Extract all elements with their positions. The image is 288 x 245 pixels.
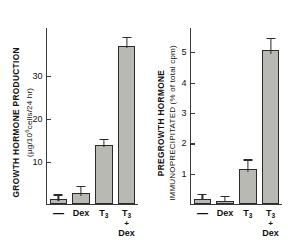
y-tick-label-left_panel-1: 20 <box>32 114 42 124</box>
error-cap-left_panel-control <box>54 194 63 195</box>
bar-slot-t3 <box>239 29 257 204</box>
error-cap-left_panel-t3 <box>99 139 108 140</box>
category-label-right_panel-t3-dex: T3+Dex <box>259 208 282 238</box>
y-tick-label-left_panel-2: 30 <box>32 71 42 81</box>
bar-slot-dex <box>216 29 234 204</box>
x-axis-line-right <box>190 204 282 205</box>
plus-glyph: + <box>259 219 282 228</box>
subscript: 3 <box>128 212 132 219</box>
y-axis-units-prefix: (µg/10 <box>25 133 34 157</box>
category-label-left_panel-control: — <box>47 208 70 219</box>
bar-slot-dex <box>72 29 90 204</box>
y-tick-label-left_panel-0: 10 <box>32 157 42 167</box>
bar-slot-t3-dex <box>118 29 136 204</box>
bar-left_panel-t3-dex <box>118 46 136 204</box>
plus-glyph: + <box>115 219 138 228</box>
category-label-right_panel-dex: Dex <box>214 208 237 218</box>
figure-container: GROWTH HORMONE PRODUCTION (µg/106cells/2… <box>0 0 288 245</box>
category-label-line3: Dex <box>115 228 138 238</box>
category-label-right_panel-t3: T3 <box>237 208 260 219</box>
error-cap-left_panel-t3-dex <box>122 37 131 38</box>
error-cap-right_panel-t3-dex <box>266 38 275 39</box>
subscript: 3 <box>105 212 109 219</box>
y-tick-label-right_panel-4: 5 <box>181 47 186 57</box>
error-bar-right_panel-control <box>202 195 203 200</box>
category-label-left_panel-dex: Dex <box>70 208 93 218</box>
bar-slot-t3-dex <box>262 29 280 204</box>
plot-area-left: 102030 <box>46 28 138 205</box>
y-axis-title-right-line1: PREGROWTH HORMONE <box>156 69 166 175</box>
y-axis-title-right-line2: IMMUNOPRECIPITATED (% of total cpm) <box>167 45 178 201</box>
error-bar-right_panel-t3 <box>247 161 248 172</box>
category-label-left_panel-t3-dex: T3+Dex <box>115 208 138 238</box>
bar-left_panel-t3 <box>95 145 113 203</box>
y-axis-title-right-wrap: PREGROWTH HORMONE IMMUNOPRECIPITATED (% … <box>144 0 190 245</box>
y-tick-label-right_panel-1: 2 <box>181 138 186 148</box>
category-label-line3: Dex <box>259 228 282 238</box>
y-tick-label-right_panel-2: 3 <box>181 108 186 118</box>
bar-right_panel-t3-dex <box>262 50 280 204</box>
category-label-left_panel-t3: T3 <box>93 208 116 219</box>
dash-glyph: — <box>53 207 64 219</box>
y-axis-title-right: PREGROWTH HORMONE IMMUNOPRECIPITATED (% … <box>156 45 178 201</box>
error-bar-right_panel-t3-dex <box>270 39 271 53</box>
bar-slot-t3 <box>95 29 113 204</box>
subscript: 3 <box>272 212 276 219</box>
bar-slot-control <box>194 29 212 204</box>
error-bar-left_panel-t3 <box>103 140 104 147</box>
error-cap-left_panel-dex <box>77 186 86 187</box>
chart-panel-right: PREGROWTH HORMONE IMMUNOPRECIPITATED (% … <box>144 0 288 245</box>
dash-glyph: — <box>197 207 208 219</box>
error-cap-right_panel-t3 <box>243 159 252 160</box>
chart-panel-left: GROWTH HORMONE PRODUCTION (µg/106cells/2… <box>0 0 144 245</box>
error-bar-right_panel-dex <box>225 197 226 202</box>
y-tick-label-right_panel-3: 4 <box>181 78 186 88</box>
plot-area-right: 12345 <box>190 28 282 205</box>
bar-right_panel-t3 <box>239 169 257 204</box>
x-axis-line-left <box>46 204 138 205</box>
subscript: 3 <box>249 212 253 219</box>
error-bar-left_panel-control <box>58 196 59 201</box>
y-tick-label-right_panel-0: 1 <box>181 169 186 179</box>
bar-group-left <box>47 29 138 204</box>
category-label-right_panel-control: — <box>191 208 214 219</box>
bar-slot-control <box>50 29 68 204</box>
category-labels-right: —DexT3T3+Dex <box>191 208 282 245</box>
category-labels-left: —DexT3T3+Dex <box>47 208 138 245</box>
y-axis-units-exponent: 6 <box>24 129 30 133</box>
error-bar-left_panel-dex <box>81 187 82 196</box>
error-cap-right_panel-dex <box>221 196 230 197</box>
error-cap-right_panel-control <box>198 194 207 195</box>
bar-group-right <box>191 29 282 204</box>
y-axis-title-left-line1: GROWTH HORMONE PRODUCTION <box>11 47 21 197</box>
error-bar-left_panel-t3-dex <box>126 38 127 48</box>
